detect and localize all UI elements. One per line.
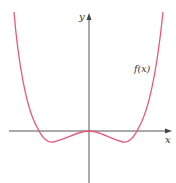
y-axis-arrow-icon (87, 13, 92, 20)
function-plot: y x f(x) (0, 0, 176, 183)
curve-label: f(x) (133, 63, 151, 74)
x-axis-arrow-icon (165, 129, 172, 134)
y-axis-label: y (78, 11, 85, 22)
x-axis-label: x (165, 134, 171, 145)
